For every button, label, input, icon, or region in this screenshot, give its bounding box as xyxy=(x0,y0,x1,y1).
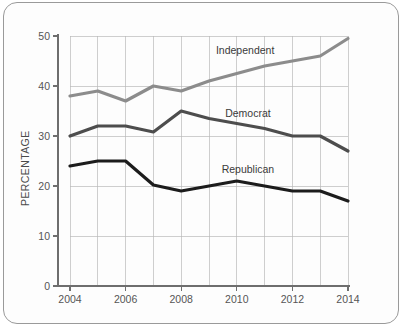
x-tick-label-2012: 2012 xyxy=(281,293,305,305)
series-labels-group: IndependentDemocratRepublican xyxy=(216,44,274,176)
series-label-independent: Independent xyxy=(216,44,274,56)
figure-root: 01020304050 200420062008201020122014 Ind… xyxy=(0,0,406,333)
x-tick-label-2010: 2010 xyxy=(225,293,249,305)
y-axis-title: PERCENTAGE xyxy=(19,130,31,206)
series-label-republican: Republican xyxy=(222,163,275,175)
line-chart: 01020304050 200420062008201020122014 Ind… xyxy=(0,0,406,333)
y-tick-label-10: 10 xyxy=(38,230,50,242)
x-tick-label-2004: 2004 xyxy=(58,293,82,305)
x-tick-label-2014: 2014 xyxy=(336,293,360,305)
x-tick-label-2008: 2008 xyxy=(170,293,194,305)
y-tick-label-0: 0 xyxy=(44,280,50,292)
y-tick-label-50: 50 xyxy=(38,30,50,42)
y-tick-label-40: 40 xyxy=(38,80,50,92)
y-tick-label-20: 20 xyxy=(38,180,50,192)
x-axis-ticks: 200420062008201020122014 xyxy=(58,286,360,305)
y-tick-label-30: 30 xyxy=(38,130,50,142)
x-tick-label-2006: 2006 xyxy=(114,293,138,305)
series-label-democrat: Democrat xyxy=(225,107,271,119)
y-axis-ticks: 01020304050 xyxy=(38,30,58,292)
